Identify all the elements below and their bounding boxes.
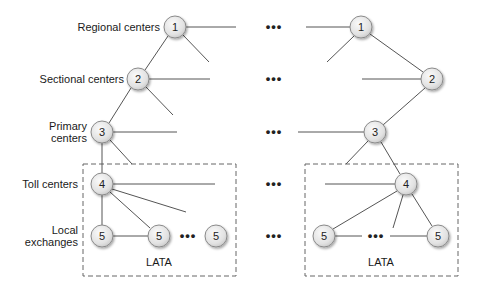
- svg-text:5: 5: [321, 230, 327, 242]
- node-local-right-2: 5: [427, 225, 449, 247]
- svg-text:3: 3: [372, 126, 378, 138]
- ellipsis-icon: •••: [266, 124, 283, 139]
- svg-text:1: 1: [358, 21, 364, 33]
- label-sectional-centers: Sectional centers: [40, 73, 125, 85]
- svg-text:5: 5: [156, 230, 162, 242]
- label-regional-centers: Regional centers: [77, 21, 160, 33]
- ellipsis-icon: •••: [266, 71, 283, 86]
- label-primary-centers-line1: Primary: [49, 120, 87, 132]
- label-primary-centers-line2: centers: [51, 132, 88, 144]
- svg-text:3: 3: [99, 126, 105, 138]
- svg-text:5: 5: [435, 230, 441, 242]
- node-primary-left: 3: [91, 121, 113, 143]
- ellipsis-markers: ••• ••• ••• ••• ••• ••• •••: [180, 19, 385, 243]
- node-sectional-left: 2: [127, 68, 149, 90]
- node-local-left-2: 5: [148, 225, 170, 247]
- svg-text:1: 1: [172, 21, 178, 33]
- node-local-left-1: 5: [91, 225, 113, 247]
- node-regional-left: 1: [164, 16, 186, 38]
- ellipsis-icon: •••: [266, 176, 283, 191]
- svg-text:2: 2: [135, 73, 141, 85]
- ellipsis-icon: •••: [368, 228, 385, 243]
- svg-text:5: 5: [99, 230, 105, 242]
- lata-label-right: LATA: [368, 256, 395, 268]
- telephone-hierarchy-diagram: Regional centers Sectional centers Prima…: [0, 0, 484, 291]
- label-local-exchanges-line2: exchanges: [25, 236, 79, 248]
- node-local-right-1: 5: [313, 225, 335, 247]
- svg-text:2: 2: [429, 73, 435, 85]
- ellipsis-icon: •••: [266, 228, 283, 243]
- ellipsis-icon: •••: [266, 19, 283, 34]
- node-local-left-3: 5: [205, 225, 227, 247]
- label-local-exchanges-line1: Local: [52, 224, 78, 236]
- svg-text:5: 5: [213, 230, 219, 242]
- svg-text:4: 4: [99, 178, 105, 190]
- node-toll-right: 4: [395, 173, 417, 195]
- node-toll-left: 4: [91, 173, 113, 195]
- node-primary-right: 3: [364, 121, 386, 143]
- lata-label-left: LATA: [146, 256, 173, 268]
- left-tree-edges: [102, 27, 236, 236]
- node-regional-right: 1: [350, 16, 372, 38]
- ellipsis-icon: •••: [180, 228, 197, 243]
- svg-text:4: 4: [403, 178, 409, 190]
- node-sectional-right: 2: [421, 68, 443, 90]
- label-toll-centers: Toll centers: [22, 178, 78, 190]
